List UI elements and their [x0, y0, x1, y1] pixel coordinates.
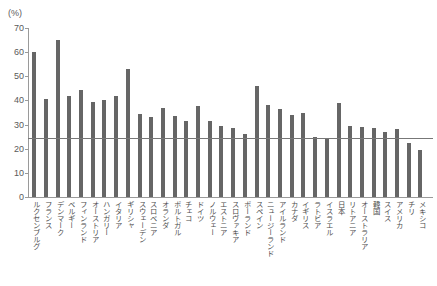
- x-axis-category-label: ポーランド: [239, 200, 250, 235]
- bar: [278, 109, 282, 197]
- x-axis-category-label: アメリカ: [392, 200, 403, 228]
- reference-line: [28, 138, 433, 139]
- y-axis-tick-mark: [25, 149, 28, 150]
- bar: [138, 114, 142, 197]
- x-axis-category-label: ポルトガル: [169, 200, 180, 235]
- x-axis-category-label: オーストラリア: [356, 200, 367, 249]
- y-axis-tick-mark: [25, 125, 28, 126]
- chart-container: (%) 010203040506070 ルクセンブルグフランスデンマークベルギー…: [0, 0, 437, 286]
- bar: [161, 108, 165, 197]
- bar: [219, 126, 223, 197]
- bar: [102, 100, 106, 197]
- bar: [32, 52, 36, 197]
- plot-area: [28, 28, 433, 197]
- bar: [44, 99, 48, 197]
- bar: [255, 86, 259, 197]
- bar: [67, 96, 71, 197]
- y-axis-tick-label: 30: [2, 120, 24, 130]
- bar: [313, 137, 317, 197]
- bar: [348, 126, 352, 197]
- x-axis-category-label: アイルランド: [275, 200, 286, 242]
- x-axis-category-labels: ルクセンブルグフランスデンマークベルギーフィンランドオーストリアハンガリーイタリ…: [28, 200, 433, 286]
- x-axis-category-label: スウェーデン: [134, 200, 145, 242]
- y-axis-tick-mark: [25, 28, 28, 29]
- bar: [196, 106, 200, 197]
- x-axis-category-label: メキシコ: [415, 200, 426, 228]
- x-axis-category-label: ベルギー: [64, 200, 75, 228]
- bar: [91, 102, 95, 197]
- bar: [173, 116, 177, 197]
- x-axis-category-label: フランス: [40, 200, 51, 228]
- x-axis-category-label: 日本: [333, 200, 344, 214]
- x-axis-category-label: カナダ: [286, 200, 297, 221]
- y-axis-tick-label: 0: [2, 192, 24, 202]
- x-axis-category-label: リトアニア: [345, 200, 356, 235]
- bar: [149, 117, 153, 197]
- bar: [290, 115, 294, 197]
- bar: [337, 103, 341, 197]
- x-axis-category-label: スロヴァキア: [228, 200, 239, 242]
- bar: [184, 121, 188, 197]
- x-axis-category-label: スロベニア: [146, 200, 157, 235]
- y-axis-tick-mark: [25, 52, 28, 53]
- y-axis-tick-label: 70: [2, 23, 24, 33]
- x-axis-category-label: チェコ: [181, 200, 192, 221]
- bar: [79, 90, 83, 197]
- x-axis-line: [28, 197, 433, 198]
- y-axis-tick-label: 50: [2, 71, 24, 81]
- bar: [418, 150, 422, 197]
- x-axis-category-label: スペイン: [251, 200, 262, 228]
- bar: [56, 40, 60, 197]
- y-axis-tick-mark: [25, 76, 28, 77]
- bar: [325, 139, 329, 197]
- bar: [395, 129, 399, 197]
- x-axis-category-label: ラトビア: [310, 200, 321, 228]
- x-axis-category-label: ハンガリー: [99, 200, 110, 235]
- y-axis-tick-label: 20: [2, 144, 24, 154]
- y-axis-tick-mark: [25, 197, 28, 198]
- x-axis-category-label: イギリス: [298, 200, 309, 228]
- y-axis-tick-mark: [25, 100, 28, 101]
- x-axis-category-label: イタリア: [111, 200, 122, 228]
- x-axis-category-label: オーストリア: [87, 200, 98, 242]
- x-axis-category-label: イスラエル: [321, 200, 332, 235]
- x-axis-category-label: オランダ: [157, 200, 168, 228]
- bar: [126, 69, 130, 197]
- x-axis-category-label: ルクセンブルグ: [29, 200, 40, 249]
- y-axis-tick-label: 40: [2, 95, 24, 105]
- bar: [208, 121, 212, 197]
- bar: [383, 132, 387, 197]
- bar: [114, 96, 118, 197]
- x-axis-category-label: フィンランド: [76, 200, 87, 242]
- x-axis-category-label: チリ: [403, 200, 414, 214]
- x-axis-category-label: エストニア: [216, 200, 227, 235]
- x-axis-category-label: ドイツ: [193, 200, 204, 221]
- y-axis-tick-labels: 010203040506070: [0, 0, 24, 286]
- bar: [301, 113, 305, 198]
- x-axis-category-label: ギリシャ: [122, 200, 133, 228]
- x-axis-category-label: 韓国: [368, 200, 379, 214]
- bar: [266, 105, 270, 197]
- x-axis-category-label: スイス: [380, 200, 391, 221]
- bar: [407, 143, 411, 197]
- bar: [243, 134, 247, 197]
- x-axis-category-label: ニュージーランド: [263, 200, 274, 256]
- y-axis-tick-mark: [25, 173, 28, 174]
- y-axis-tick-label: 60: [2, 47, 24, 57]
- x-axis-category-label: ノルウェー: [204, 200, 215, 235]
- x-axis-category-label: デンマーク: [52, 200, 63, 235]
- y-axis-tick-label: 10: [2, 168, 24, 178]
